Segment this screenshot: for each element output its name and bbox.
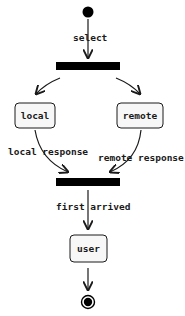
edge-label-local-response: local response [8,146,88,157]
edge-to-local [36,78,60,94]
activity-diagram: select local remote local response remot… [0,0,185,316]
edge-to-remote [116,78,140,94]
action-node-user: user [70,235,107,262]
edge-select: select [73,19,107,58]
initial-node [83,7,94,18]
action-node-remote: remote [117,103,163,128]
edge-label-first-arrived: first arrived [56,201,131,212]
edge-first-arrived: first arrived [56,190,131,229]
action-node-local: local [15,103,55,128]
edge-label-remote-response: remote response [98,152,184,163]
edge-local-response: local response [8,130,88,172]
node-label-local: local [21,110,50,121]
edge-remote-response: remote response [98,130,184,172]
node-label-user: user [77,243,100,254]
join-bar [56,178,120,186]
edge-label-select: select [73,32,107,43]
final-node [82,296,95,309]
node-label-remote: remote [123,110,158,121]
fork-bar [56,62,120,70]
